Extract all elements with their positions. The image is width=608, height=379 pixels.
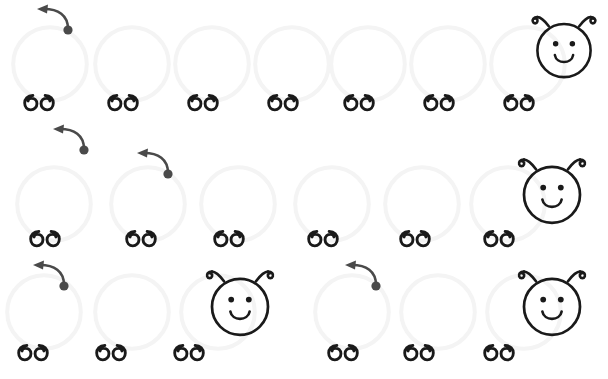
caterpillar-feet-pair (96, 343, 126, 363)
caterpillar-body-segment (398, 272, 478, 352)
caterpillar-body-segment (92, 272, 172, 352)
activity-canvas (0, 0, 608, 379)
caterpillar-head-smiley (200, 262, 280, 342)
caterpillar-feet-pair (174, 343, 204, 363)
caterpillar-feet-pair (404, 343, 434, 363)
caterpillar-row (0, 0, 608, 379)
caterpillar-feet-pair (328, 343, 358, 363)
caterpillar-head-smiley (512, 262, 592, 342)
caterpillar-feet-pair (18, 343, 48, 363)
caterpillar-feet-pair (484, 343, 514, 363)
drag-gesture-arrow[interactable] (30, 258, 74, 292)
drag-gesture-arrow[interactable] (342, 258, 386, 292)
